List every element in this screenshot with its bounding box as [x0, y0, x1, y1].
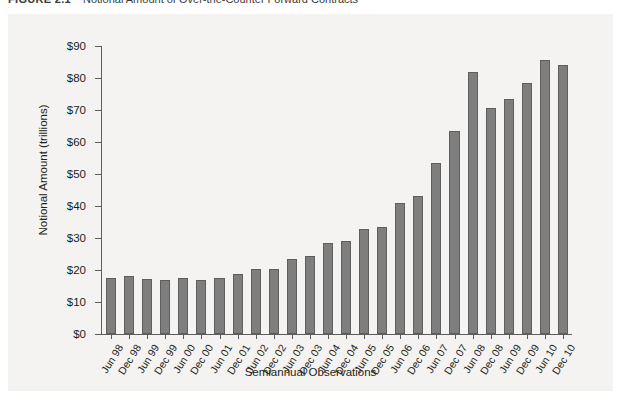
- x-axis-tick: [310, 334, 311, 339]
- x-axis-tick: [111, 334, 112, 339]
- x-axis-tick: [238, 334, 239, 339]
- y-axis-tick: $80: [95, 78, 101, 79]
- y-axis-tick-label: $20: [67, 264, 86, 276]
- figure-container: FIGURE 2.1 Notional Amount of Over-the-C…: [0, 0, 621, 402]
- x-axis-tick: [382, 334, 383, 339]
- y-axis-tick-label: $50: [67, 168, 86, 180]
- bar-series: [102, 46, 572, 334]
- y-axis-tick-label: $10: [67, 296, 86, 308]
- y-axis-tick-label: $80: [67, 72, 86, 84]
- x-axis-tick: [129, 334, 130, 339]
- x-axis-tick: [436, 334, 437, 339]
- y-axis-tick-label: $30: [67, 232, 86, 244]
- x-axis-tick: [455, 334, 456, 339]
- bar: [486, 108, 496, 334]
- x-axis-tick: [400, 334, 401, 339]
- figure-number: FIGURE 2.1: [8, 0, 71, 5]
- y-axis-tick: $50: [95, 174, 101, 175]
- bar: [413, 196, 423, 334]
- bar: [558, 65, 568, 334]
- chart-panel: Notional Amount (trillions) $0$10$20$30$…: [8, 14, 613, 391]
- figure-caption: FIGURE 2.1 Notional Amount of Over-the-C…: [0, 0, 621, 9]
- x-axis-tick: [201, 334, 202, 339]
- x-axis-tick: [274, 334, 275, 339]
- x-axis-tick: [328, 334, 329, 339]
- y-axis-tick: $40: [95, 206, 101, 207]
- x-axis-tick: [473, 334, 474, 339]
- x-axis-tick: [509, 334, 510, 339]
- bar: [540, 60, 550, 334]
- bar: [468, 72, 478, 334]
- y-axis-tick: $90: [95, 46, 101, 47]
- y-axis-label: Notional Amount (trillions): [37, 60, 49, 280]
- x-axis-tick: [165, 334, 166, 339]
- x-axis-tick: [292, 334, 293, 339]
- y-axis-tick: $70: [95, 110, 101, 111]
- y-axis-tick: $10: [95, 302, 101, 303]
- y-axis-tick-label: $60: [67, 136, 86, 148]
- plot-area: $0$10$20$30$40$50$60$70$80$90 Jun 98Dec …: [101, 46, 571, 334]
- bar: [106, 278, 116, 334]
- figure-title: Notional Amount of Over-the-Counter Forw…: [83, 0, 358, 5]
- x-axis-tick: [256, 334, 257, 339]
- y-axis-tick: $20: [95, 270, 101, 271]
- x-axis-tick: [364, 334, 365, 339]
- x-axis-tick: [563, 334, 564, 339]
- x-axis-tick: [220, 334, 221, 339]
- y-axis-tick-label: $70: [67, 104, 86, 116]
- x-axis-tick: [491, 334, 492, 339]
- y-axis-tick: $60: [95, 142, 101, 143]
- x-axis-tick: [346, 334, 347, 339]
- x-axis-tick: [527, 334, 528, 339]
- x-axis-tick: [183, 334, 184, 339]
- bar: [504, 99, 514, 334]
- y-axis-tick: $30: [95, 238, 101, 239]
- y-axis-tick-label: $40: [67, 200, 86, 212]
- x-axis-tick: [545, 334, 546, 339]
- x-axis-label: Semiannual Observations: [8, 366, 613, 378]
- y-axis-tick: $0: [95, 334, 101, 335]
- y-axis-tick-label: $0: [73, 328, 86, 340]
- x-axis-tick: [147, 334, 148, 339]
- bar: [431, 163, 441, 334]
- bar: [522, 83, 532, 334]
- y-axis-tick-label: $90: [67, 40, 86, 52]
- x-axis-tick: [418, 334, 419, 339]
- bar: [449, 131, 459, 334]
